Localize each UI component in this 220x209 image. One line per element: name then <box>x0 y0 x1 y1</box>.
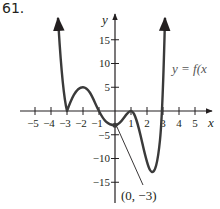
marked-point <box>113 123 118 128</box>
svg-text:−5: −5 <box>27 117 39 129</box>
svg-text:−2: −2 <box>75 117 87 129</box>
svg-text:5: 5 <box>192 117 198 129</box>
function-curve <box>58 18 165 172</box>
svg-text:−4: −4 <box>43 117 55 129</box>
y-axis-label: y <box>100 12 108 27</box>
svg-text:15: 15 <box>99 34 111 46</box>
callout-label: (0, −3) <box>121 188 157 203</box>
svg-text:10: 10 <box>99 57 111 69</box>
svg-text:2: 2 <box>144 117 150 129</box>
svg-text:−15: −15 <box>93 176 111 188</box>
function-label: y = f(x <box>170 61 207 76</box>
svg-text:−5: −5 <box>98 129 110 141</box>
x-tick-labels: −5 −4 −3 −2 −1 1 2 3 4 5 <box>27 117 198 129</box>
x-axis-label: x <box>207 115 214 130</box>
svg-text:1: 1 <box>128 117 134 129</box>
svg-text:4: 4 <box>176 117 182 129</box>
graph: −5 −4 −3 −2 −1 1 2 3 4 5 15 10 5 −5 −10 … <box>0 0 220 209</box>
svg-text:−1: −1 <box>91 117 103 129</box>
svg-text:5: 5 <box>105 81 111 93</box>
svg-text:−3: −3 <box>59 117 71 129</box>
svg-text:−10: −10 <box>93 152 111 164</box>
callout-line <box>117 127 143 185</box>
